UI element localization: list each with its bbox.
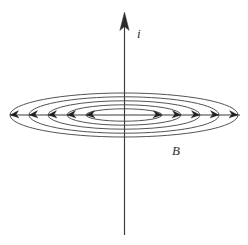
current-label: i [137,27,141,40]
field-arrows-right-group [153,111,238,118]
field-arrows-left-group [10,111,95,118]
physics-diagram-figure: i B [0,0,248,245]
magnetic-field-label: B [172,144,180,157]
diagram-canvas [0,0,248,245]
